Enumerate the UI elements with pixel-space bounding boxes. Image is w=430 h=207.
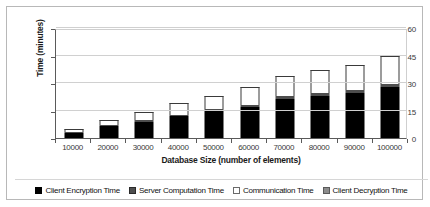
bar-group bbox=[56, 30, 406, 138]
legend-swatch-icon bbox=[35, 187, 42, 194]
bar-segment bbox=[205, 111, 224, 139]
legend-item[interactable]: Server Computation Time bbox=[129, 186, 224, 195]
bar-segment bbox=[381, 56, 400, 84]
x-tick-mark bbox=[55, 139, 56, 143]
legend-item[interactable]: Client Decryption Time bbox=[323, 186, 408, 195]
stacked-bar[interactable] bbox=[310, 70, 329, 138]
x-tick-mark bbox=[372, 139, 373, 143]
chart-legend: Client Encryption TimeServer Computation… bbox=[15, 179, 428, 200]
x-tick-label: 20000 bbox=[97, 143, 118, 152]
bar-slot bbox=[126, 30, 161, 138]
stacked-bar[interactable] bbox=[170, 103, 189, 138]
x-tick-label: 40000 bbox=[168, 143, 189, 152]
bar-segment bbox=[381, 87, 400, 138]
x-tick-mark bbox=[90, 139, 91, 143]
bar-segment bbox=[240, 87, 259, 105]
stacked-bar[interactable] bbox=[205, 96, 224, 138]
bar-segment bbox=[275, 76, 294, 97]
bar-slot bbox=[267, 30, 302, 138]
x-tick-label: 70000 bbox=[273, 143, 294, 152]
bar-slot bbox=[197, 30, 232, 138]
bar-segment bbox=[346, 93, 365, 138]
y-tick-label: 0 bbox=[412, 135, 416, 144]
x-tick-mark bbox=[196, 139, 197, 143]
chart-screenshot: Time (minutes) 015304560 100002000030000… bbox=[0, 0, 430, 207]
plot-area bbox=[55, 29, 407, 139]
bar-slot bbox=[56, 30, 91, 138]
x-tick-mark bbox=[301, 139, 302, 143]
legend-swatch-icon bbox=[129, 187, 136, 194]
x-tick-label: 30000 bbox=[133, 143, 154, 152]
x-tick-label: 100000 bbox=[377, 143, 402, 152]
x-axis-title: Database Size (number of elements) bbox=[55, 155, 407, 165]
grid-line bbox=[56, 55, 406, 56]
legend-label: Client Encryption Time bbox=[45, 186, 120, 195]
x-tick-label: 60000 bbox=[238, 143, 259, 152]
stacked-bar[interactable] bbox=[134, 112, 153, 138]
bar-segment bbox=[346, 65, 365, 91]
y-axis-title: Time (minutes) bbox=[35, 3, 45, 93]
bar-segment bbox=[170, 116, 189, 138]
bar-segment bbox=[99, 126, 118, 138]
bar-segment bbox=[275, 99, 294, 138]
x-tick-labels: 1000020000300004000050000600007000080000… bbox=[55, 139, 407, 155]
x-tick-mark bbox=[337, 139, 338, 143]
y-tick-label: 15 bbox=[408, 107, 417, 116]
stacked-bar[interactable] bbox=[64, 129, 83, 138]
legend-label: Communication Time bbox=[243, 186, 314, 195]
y-axis: Time (minutes) bbox=[7, 7, 55, 147]
x-tick-mark bbox=[266, 139, 267, 143]
legend-swatch-icon bbox=[323, 187, 330, 194]
legend-item[interactable]: Communication Time bbox=[233, 186, 314, 195]
y-tick-mark bbox=[51, 112, 55, 113]
bar-segment bbox=[134, 112, 153, 120]
bar-segment bbox=[310, 96, 329, 138]
grid-line bbox=[56, 110, 406, 111]
x-tick-label: 50000 bbox=[203, 143, 224, 152]
x-tick-label: 10000 bbox=[62, 143, 83, 152]
bar-slot bbox=[338, 30, 373, 138]
legend-label: Server Computation Time bbox=[139, 186, 224, 195]
bar-segment bbox=[240, 107, 259, 138]
bar-slot bbox=[232, 30, 267, 138]
x-tick-label: 90000 bbox=[344, 143, 365, 152]
stacked-bar[interactable] bbox=[240, 87, 259, 138]
y-tick-mark bbox=[51, 57, 55, 58]
grid-line bbox=[56, 27, 406, 28]
y-tick-mark bbox=[51, 29, 55, 30]
x-tick-label: 80000 bbox=[309, 143, 330, 152]
legend-swatch-icon bbox=[233, 187, 240, 194]
y-tick-label: 45 bbox=[408, 52, 417, 61]
legend-item[interactable]: Client Encryption Time bbox=[35, 186, 120, 195]
x-tick-mark bbox=[231, 139, 232, 143]
chart-frame: Time (minutes) 015304560 100002000030000… bbox=[6, 6, 423, 200]
y-tick-mark bbox=[51, 84, 55, 85]
y-tick-label: 60 bbox=[408, 25, 417, 34]
bar-segment bbox=[64, 133, 83, 139]
bar-slot bbox=[91, 30, 126, 138]
bar-segment bbox=[134, 122, 153, 139]
stacked-bar[interactable] bbox=[99, 120, 118, 138]
x-tick-mark bbox=[125, 139, 126, 143]
bar-slot bbox=[162, 30, 197, 138]
legend-label: Client Decryption Time bbox=[333, 186, 408, 195]
bar-segment bbox=[205, 96, 224, 109]
x-tick-mark bbox=[407, 139, 408, 143]
y-tick-label: 30 bbox=[408, 80, 417, 89]
stacked-bar[interactable] bbox=[275, 76, 294, 138]
stacked-bar[interactable] bbox=[381, 56, 400, 138]
bar-slot bbox=[302, 30, 337, 138]
bar-slot bbox=[373, 30, 408, 138]
grid-line bbox=[56, 82, 406, 83]
x-tick-mark bbox=[161, 139, 162, 143]
stacked-bar[interactable] bbox=[346, 65, 365, 138]
